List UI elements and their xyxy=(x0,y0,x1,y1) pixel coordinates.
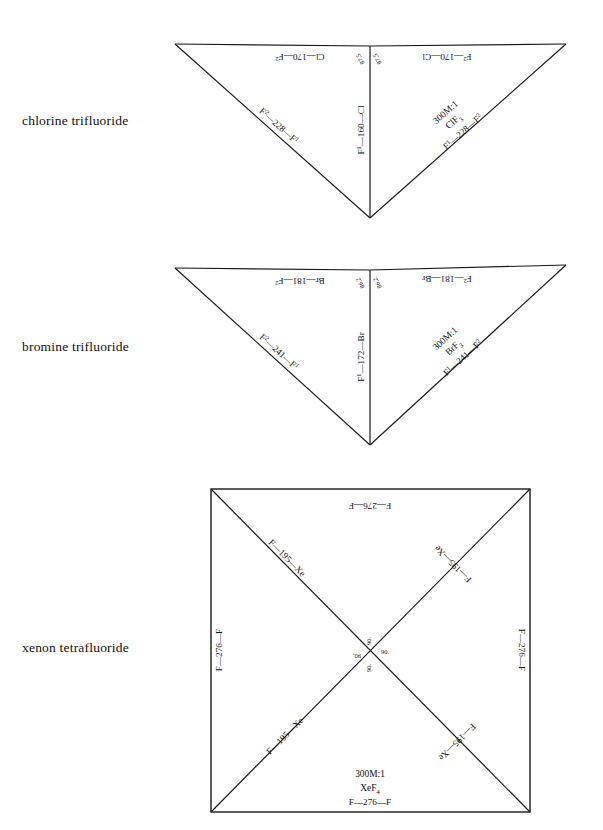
molecule-diagram-brf3: Br—181—F2 F2—181—Br 86.2 86.2 F1—172—Br … xyxy=(175,265,566,445)
molecule-diagram-xef4: F—276—F F—276—F F—276—F F—276—F F—195—Xe… xyxy=(211,489,530,812)
xef4-label-diagonal-lower-left: F—195—Xe xyxy=(264,715,305,756)
clf3-bond-diagonal-left xyxy=(175,44,370,218)
xef4-angle-top: 90. xyxy=(365,637,372,645)
clf3-bond-top-left xyxy=(175,44,370,46)
xef4-label-diagonal-upper-right: F—195—Xe xyxy=(432,544,473,585)
xef4-label-diagonal-upper-left: F—195—Xe xyxy=(267,537,308,578)
xef4-label-diagonal-lower-right: F—195—Xe xyxy=(437,722,478,763)
clf3-caption-block: 300M:1 ClF3 F1—228—F2 xyxy=(424,92,484,151)
xef4-angle-right: 90. xyxy=(381,648,389,655)
brf3-bond-top-right xyxy=(370,265,566,270)
brf3-bond-top-left xyxy=(175,268,370,270)
xef4-formula-label: XeF4 xyxy=(360,783,380,795)
brf3-bond-diagonal-left xyxy=(175,268,370,445)
xef4-label-bottom-edge: F—276—F xyxy=(349,797,391,807)
brf3-label-diagonal-left: F2—241—F1 xyxy=(258,331,301,372)
brf3-angle-left: 86.2 xyxy=(354,277,365,290)
clf3-label-diagonal-left: F2—228—F1 xyxy=(258,105,302,146)
xef4-label-left-edge: F—276—F xyxy=(214,629,224,671)
clf3-label-top-right-edge: F2—170—Cl xyxy=(422,52,472,63)
brf3-angle-right: 86.2 xyxy=(371,277,382,290)
molecule-diagram-clf3: Cl—170—F2 F2—170—Cl 87.5 87.5 F1—160—Cl … xyxy=(175,44,566,218)
brf3-label-vertical-bond: F1—172—Br xyxy=(355,332,366,382)
xef4-angle-left: 90. xyxy=(353,653,361,660)
brf3-label-top-left-edge: Br—181—F2 xyxy=(275,276,325,287)
clf3-bond-top-right xyxy=(370,44,566,46)
xef4-label-right-edge: F—276—F xyxy=(517,629,527,671)
clf3-angle-right: 87.5 xyxy=(371,53,382,66)
brf3-label-top-right-edge: F2—181—Br xyxy=(422,274,472,285)
diagram-canvas: Cl—170—F2 F2—170—Cl 87.5 87.5 F1—160—Cl … xyxy=(0,0,603,830)
brf3-caption-block: 300M:1 BrF3 F1—241—F2 xyxy=(424,318,484,377)
xef4-angle-bottom: 90. xyxy=(365,664,372,672)
clf3-angle-left: 87.5 xyxy=(354,53,365,66)
figure-page: chlorine trifluoride bromine trifluoride… xyxy=(0,0,603,830)
clf3-label-top-left-edge: Cl—170—F2 xyxy=(275,52,324,63)
xef4-label-top-edge: F—276—F xyxy=(349,501,391,511)
xef4-scale-label: 300M:1 xyxy=(355,769,385,779)
clf3-label-vertical-bond: F1—160—Cl xyxy=(355,105,366,155)
